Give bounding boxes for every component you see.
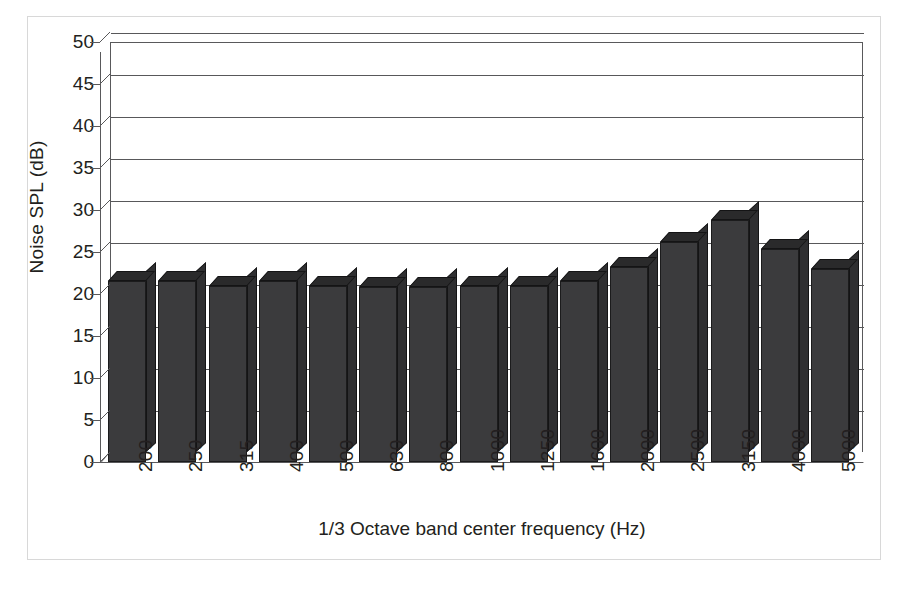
y-tick-depth-connector [100, 410, 111, 421]
y-tick-depth-connector [100, 74, 111, 85]
chart-page: Noise SPL (dB) 50454035302520151050 1/3 … [0, 0, 901, 593]
y-tick-depth-connector [100, 116, 111, 127]
x-axis-tick-label-5000: 5000 [838, 429, 860, 472]
y-axis-tick [90, 210, 100, 211]
y-axis-tick [90, 294, 100, 295]
y-tick-depth-connector [100, 326, 111, 337]
x-axis-tick-label-1600: 1600 [587, 429, 609, 472]
y-tick-depth-connector [100, 452, 111, 463]
x-axis-tick-label-2000: 2000 [637, 429, 659, 472]
y-axis-tick [90, 420, 100, 421]
x-axis-tick-label-250: 250 [185, 439, 207, 472]
x-axis-tick-label-800: 800 [436, 439, 458, 472]
y-axis-tick [90, 378, 100, 379]
x-axis-tick-label-400: 400 [286, 439, 308, 472]
bar-5000[interactable] [0, 0, 901, 593]
y-axis-tick [90, 84, 100, 85]
y-axis-tick [90, 336, 100, 337]
x-axis-tick-label-2500: 2500 [687, 429, 709, 472]
y-axis-tick [90, 168, 100, 169]
y-tick-depth-connector [100, 242, 111, 253]
x-axis-tick-label-3150: 3150 [738, 429, 760, 472]
y-tick-depth-connector [100, 32, 111, 43]
x-axis-title: 1/3 Octave band center frequency (Hz) [100, 518, 864, 540]
y-axis-tick [90, 126, 100, 127]
y-axis-tick [90, 462, 100, 463]
x-axis-tick-label-500: 500 [336, 439, 358, 472]
y-tick-depth-connector [100, 368, 111, 379]
x-axis-tick-label-1250: 1250 [537, 429, 559, 472]
x-axis-tick-label-630: 630 [386, 439, 408, 472]
x-axis-tick-label-4000: 4000 [788, 429, 810, 472]
y-tick-depth-connector [100, 200, 111, 211]
y-axis-tick [90, 252, 100, 253]
x-axis-tick-label-1000: 1000 [487, 429, 509, 472]
bar-side-face [849, 250, 859, 452]
x-axis-tick-label-200: 200 [135, 439, 157, 472]
y-axis-tick [90, 42, 100, 43]
x-axis-tick-label-315: 315 [236, 439, 258, 472]
y-tick-depth-connector [100, 284, 111, 295]
bars-layer [0, 0, 901, 593]
y-tick-depth-connector [100, 158, 111, 169]
